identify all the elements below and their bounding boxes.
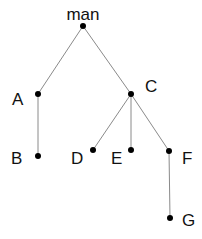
tree-diagram: man A C B D E F G bbox=[0, 0, 202, 239]
label-d: D bbox=[71, 149, 83, 168]
node-c bbox=[128, 91, 134, 97]
labels: man A C B D E F G bbox=[11, 5, 195, 230]
edge-man-a bbox=[38, 26, 83, 94]
node-b bbox=[35, 153, 41, 159]
edge-f-g bbox=[169, 151, 170, 218]
edge-c-d bbox=[93, 94, 131, 150]
node-d bbox=[90, 147, 96, 153]
label-f: F bbox=[182, 149, 192, 168]
edge-man-c bbox=[83, 26, 131, 94]
label-e: E bbox=[111, 149, 122, 168]
label-c: C bbox=[145, 77, 157, 96]
edge-c-f bbox=[131, 94, 169, 151]
node-a bbox=[35, 91, 41, 97]
node-e bbox=[128, 147, 134, 153]
label-man: man bbox=[66, 5, 99, 24]
label-g: G bbox=[182, 211, 195, 230]
node-f bbox=[166, 148, 172, 154]
label-b: B bbox=[11, 149, 22, 168]
edges bbox=[38, 26, 170, 218]
node-g bbox=[167, 215, 173, 221]
label-a: A bbox=[12, 90, 24, 109]
nodes bbox=[35, 23, 173, 221]
